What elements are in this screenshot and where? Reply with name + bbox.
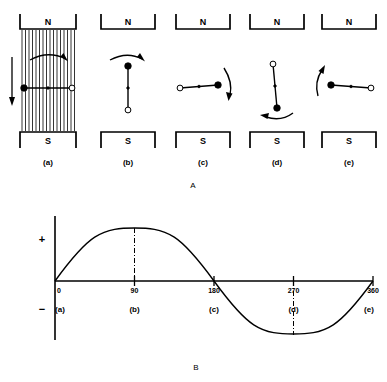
- coil-e: [328, 82, 374, 91]
- chart-positive-label: +: [39, 233, 45, 245]
- section-a-panels: N S (a): [9, 14, 376, 190]
- north-pole-label-c: N: [200, 17, 207, 27]
- physics-figure: N S (a): [0, 0, 387, 382]
- south-pole-label-e: S: [346, 136, 352, 146]
- chart-phase-label-a: (a): [55, 305, 65, 314]
- section-b-chart: + − 0 90 180 270 360 (a) (b) (c): [39, 216, 379, 372]
- coil-axis-dot-d: [274, 85, 277, 88]
- coil-axis-dot-c: [198, 85, 201, 88]
- chart-xtick-label-180: 180: [208, 287, 220, 294]
- north-pole-label-e: N: [346, 17, 353, 27]
- chart-xtick-label-0: 0: [57, 287, 61, 294]
- section-b-label: B: [193, 363, 198, 372]
- chart-xtick-label-360: 360: [367, 287, 379, 294]
- panel-a: N S (a): [9, 14, 76, 167]
- section-a-label: A: [190, 181, 196, 190]
- coil-marker-filled-c: [215, 82, 222, 89]
- figure-root: N S (a): [0, 0, 387, 382]
- coil-b: [125, 63, 132, 113]
- south-pole-label-b: S: [125, 136, 131, 146]
- coil-marker-hollow-d: [270, 61, 276, 67]
- rotation-arrow-icon-c: [224, 68, 233, 101]
- panel-e: N S (e): [317, 14, 376, 167]
- panel-b: N S (b): [101, 14, 155, 167]
- chart-phase-label-e: (e): [364, 305, 374, 314]
- panel-d: N S (d): [250, 14, 304, 167]
- panel-label-a: (a): [43, 158, 53, 167]
- coil-marker-filled-d: [274, 105, 281, 112]
- rotation-arrow-icon-e: [317, 65, 325, 96]
- coil-axis-dot-b: [127, 87, 130, 90]
- coil-axis-dot-e: [350, 85, 353, 88]
- field-direction-arrow-icon-a: [9, 57, 15, 106]
- coil-marker-filled-e: [328, 82, 335, 89]
- panel-label-e: (e): [344, 158, 354, 167]
- north-pole-label-b: N: [125, 17, 132, 27]
- field-lines-a: [22, 30, 75, 131]
- coil-marker-filled-b: [125, 63, 132, 70]
- coil-marker-hollow-e: [368, 85, 374, 91]
- chart-phase-label-c: (c): [209, 305, 219, 314]
- coil-marker-filled-a: [21, 85, 28, 92]
- chart-phase-label-b: (b): [129, 305, 140, 314]
- coil-marker-hollow-c: [177, 85, 183, 91]
- chart-phase-label-d: (d): [288, 305, 299, 314]
- panel-label-c: (c): [198, 158, 208, 167]
- panel-label-d: (d): [272, 158, 283, 167]
- rotation-arrow-icon-b: [110, 53, 145, 62]
- coil-axis-dot-a: [47, 87, 50, 90]
- south-pole-label-a: S: [45, 136, 51, 146]
- panel-c: N S (c): [176, 14, 233, 167]
- chart-xtick-label-270: 270: [288, 287, 300, 294]
- panel-label-b: (b): [123, 158, 134, 167]
- coil-marker-hollow-a: [69, 85, 75, 91]
- chart-xtick-label-90: 90: [131, 287, 139, 294]
- coil-c: [177, 82, 221, 91]
- coil-d: [270, 61, 280, 111]
- south-pole-label-d: S: [274, 136, 280, 146]
- north-pole-label-d: N: [274, 17, 281, 27]
- north-pole-label-a: N: [45, 17, 52, 27]
- south-pole-label-c: S: [200, 136, 206, 146]
- chart-negative-label: −: [39, 303, 45, 315]
- rotation-arrow-icon-d: [260, 113, 293, 119]
- coil-marker-hollow-b: [125, 107, 131, 113]
